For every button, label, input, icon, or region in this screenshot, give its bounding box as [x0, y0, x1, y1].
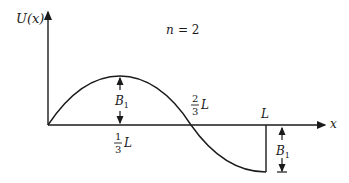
amplitude-label-top: B1: [114, 94, 129, 110]
one-third-L: L: [123, 136, 132, 150]
y-axis-label: U(x): [16, 11, 44, 26]
end-L-label: L: [260, 107, 269, 121]
one-third-numerator: 1: [115, 131, 121, 142]
amplitude-label-bottom: B1: [275, 144, 290, 160]
one-third-denominator: 3: [115, 144, 121, 155]
two-thirds-numerator: 2: [192, 93, 198, 104]
mode-shape-curve: [48, 76, 266, 172]
title-eq: = 2: [178, 23, 200, 37]
two-thirds-L: L: [200, 98, 209, 112]
mode-shape-diagram: U(x) n = 2 x B1 B1 1 3 L 2 3 L L: [0, 0, 349, 183]
two-thirds-denominator: 3: [192, 106, 198, 117]
x-axis-label: x: [330, 117, 337, 131]
title-n: n: [166, 23, 174, 37]
